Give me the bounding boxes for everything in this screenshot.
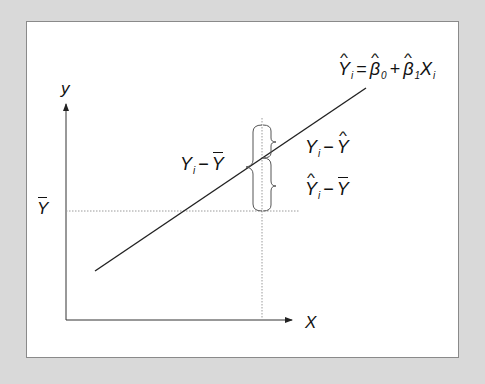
total-deviation-label: Yi−Y <box>180 155 224 176</box>
x-axis-label: X <box>305 314 316 331</box>
regression-diagram <box>0 0 485 384</box>
explained-label: Yi−Y <box>305 180 349 201</box>
total-deviation-brace <box>246 125 262 211</box>
y-axis-label: y <box>61 80 70 97</box>
residual-label: Yi−Y <box>305 138 349 159</box>
regression-equation: Yi=β0+β1Xi <box>338 60 435 81</box>
y-mean-label: Y <box>37 200 48 217</box>
explained-brace <box>263 158 276 211</box>
